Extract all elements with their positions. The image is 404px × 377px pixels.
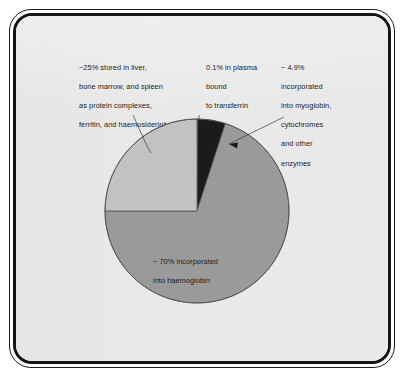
label-storage-line-2: bone marrow, and spleen — [79, 82, 207, 92]
figure-root: ~25% stored in liver, bone marrow, and s… — [0, 0, 404, 377]
label-myoglobin-line-3: into myoglobin, — [281, 101, 353, 111]
label-storage-line-1: ~25% stored in liver, — [79, 63, 207, 73]
label-storage: ~25% stored in liver, bone marrow, and s… — [79, 53, 207, 139]
label-plasma-line-2: bound — [206, 82, 272, 92]
label-plasma-transferrin: 0.1% in plasma bound to transferrin — [206, 53, 272, 120]
label-haemoglobin-line-2: into haemoglobin — [153, 276, 263, 286]
figure-panel: ~25% stored in liver, bone marrow, and s… — [13, 13, 391, 364]
label-myoglobin-line-5: and other — [281, 139, 353, 149]
label-storage-line-3: as protein complexes, — [79, 101, 207, 111]
label-myoglobin-line-6: enzymes — [281, 159, 353, 169]
label-haemoglobin-line-1: ~ 70% incorporated — [153, 257, 263, 267]
label-plasma-line-1: 0.1% in plasma — [206, 63, 272, 73]
label-plasma-line-3: to transferrin — [206, 101, 272, 111]
label-myoglobin-line-2: incorporated — [281, 82, 353, 92]
label-haemoglobin: ~ 70% incorporated into haemoglobin — [153, 247, 263, 295]
label-myoglobin-line-4: cytochromes — [281, 120, 353, 130]
label-myoglobin-line-1: ~ 4.9% — [281, 63, 353, 73]
label-myoglobin: ~ 4.9% incorporated into myoglobin, cyto… — [281, 53, 353, 178]
label-storage-line-4: ferritin, and haemosiderin* — [79, 120, 207, 130]
